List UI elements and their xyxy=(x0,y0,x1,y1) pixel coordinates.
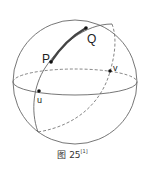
equator-back xyxy=(13,69,137,82)
point-v xyxy=(108,69,112,73)
great-circle-back xyxy=(38,24,115,132)
label-q: Q xyxy=(87,32,96,46)
caption-text: 图 25 xyxy=(57,150,80,160)
equator-front xyxy=(13,82,137,95)
caption-reference: [1] xyxy=(81,148,88,154)
point-q xyxy=(84,26,88,30)
sphere-outline xyxy=(13,20,137,144)
figure-caption: 图 25[1] xyxy=(0,148,145,161)
point-u xyxy=(37,89,41,93)
label-v: v xyxy=(113,63,118,73)
label-u: u xyxy=(37,95,42,105)
great-circle-front xyxy=(34,24,112,132)
label-p: P xyxy=(42,52,50,66)
